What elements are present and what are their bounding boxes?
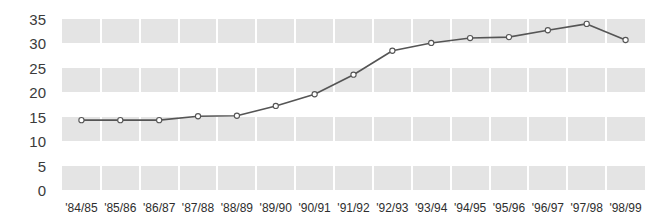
- data-point: [234, 113, 239, 118]
- y-axis: 05101520253035: [0, 0, 58, 200]
- x-tick-label: '98/99: [609, 202, 641, 214]
- x-tick-label: '85/86: [104, 202, 136, 214]
- x-tick-label: '84/85: [65, 202, 97, 214]
- data-point: [118, 118, 123, 123]
- y-tick-label: 20: [29, 85, 46, 100]
- series-markers: [79, 21, 628, 122]
- x-tick-label: '92/93: [376, 202, 408, 214]
- x-tick-label: '89/90: [260, 202, 292, 214]
- y-tick-label: 15: [29, 109, 46, 124]
- x-tick-label: '94/95: [454, 202, 486, 214]
- data-point: [390, 48, 395, 53]
- x-tick-label: '97/98: [571, 202, 603, 214]
- data-point: [545, 28, 550, 33]
- data-point: [312, 92, 317, 97]
- data-point: [584, 21, 589, 26]
- x-axis: '84/85'85/86'86/87'87/88'88/89'89/90'90/…: [0, 198, 652, 224]
- x-tick-label: '86/87: [143, 202, 175, 214]
- data-point: [468, 35, 473, 40]
- x-tick-label: '96/97: [532, 202, 564, 214]
- y-tick-label: 10: [29, 134, 46, 149]
- x-tick-label: '90/91: [298, 202, 330, 214]
- data-point: [429, 40, 434, 45]
- x-tick-label: '88/89: [221, 202, 253, 214]
- line-chart: 05101520253035 '84/85'85/86'86/87'87/88'…: [0, 0, 652, 224]
- y-tick-label: 30: [29, 36, 46, 51]
- data-point: [623, 37, 628, 42]
- data-point: [79, 118, 84, 123]
- data-point: [273, 103, 278, 108]
- data-point: [506, 34, 511, 39]
- data-point: [157, 118, 162, 123]
- y-tick-label: 25: [29, 60, 46, 75]
- data-point: [195, 114, 200, 119]
- plot-area: [62, 19, 645, 190]
- y-tick-label: 35: [29, 12, 46, 27]
- data-series: [62, 19, 645, 190]
- data-point: [351, 72, 356, 77]
- x-tick-label: '95/96: [493, 202, 525, 214]
- x-tick-label: '87/88: [182, 202, 214, 214]
- x-tick-label: '91/92: [337, 202, 369, 214]
- y-tick-label: 0: [38, 183, 46, 198]
- x-tick-label: '93/94: [415, 202, 447, 214]
- y-tick-label: 5: [38, 158, 46, 173]
